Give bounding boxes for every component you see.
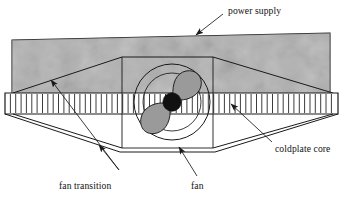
leader-fan xyxy=(179,147,197,176)
fan-transition-lower-left-outer xyxy=(5,114,120,152)
figure-canvas: power supply coldplate core fan transiti… xyxy=(0,0,347,197)
label-power-supply: power supply xyxy=(228,5,281,16)
label-fan: fan xyxy=(191,180,204,191)
label-fan-transition: fan transition xyxy=(59,180,111,191)
fan-transition-lower-left xyxy=(13,114,122,148)
leader-power-supply xyxy=(196,14,223,35)
fan-hub xyxy=(163,93,181,111)
diagram-svg: power supply coldplate core fan transiti… xyxy=(0,0,347,197)
label-coldplate-core: coldplate core xyxy=(275,143,330,154)
